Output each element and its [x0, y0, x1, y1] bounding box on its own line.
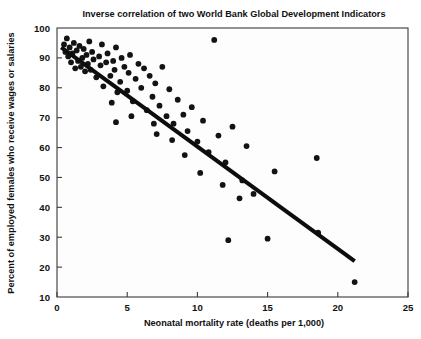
- data-point: [103, 59, 109, 65]
- y-tick-label: 50: [39, 172, 50, 183]
- data-point: [166, 86, 172, 92]
- plot-frame: [57, 28, 408, 297]
- data-point: [91, 56, 97, 62]
- x-tick-label: 15: [262, 302, 273, 313]
- data-point: [119, 55, 125, 61]
- data-point: [251, 191, 257, 197]
- data-point: [151, 121, 157, 127]
- data-point: [112, 67, 118, 73]
- data-point: [189, 104, 195, 110]
- data-point: [96, 53, 102, 59]
- x-axis-label: Neonatal mortality rate (deaths per 1,00…: [144, 318, 324, 328]
- scatter-plot: Inverse correlation of two World Bank Gl…: [0, 0, 421, 339]
- chart-figure: Inverse correlation of two World Bank Gl…: [0, 0, 421, 339]
- y-tick-label: 60: [39, 142, 50, 153]
- data-point: [237, 195, 243, 201]
- data-point: [136, 61, 142, 67]
- data-point: [107, 73, 113, 79]
- data-point: [175, 97, 181, 103]
- data-point: [352, 279, 358, 285]
- data-point: [67, 45, 73, 51]
- data-point: [109, 100, 115, 106]
- data-point: [113, 119, 119, 125]
- y-tick-label: 20: [39, 262, 50, 273]
- data-point: [129, 113, 135, 119]
- data-point: [133, 76, 139, 82]
- data-point: [141, 65, 147, 71]
- y-tick-label: 40: [39, 202, 50, 213]
- data-point: [211, 37, 217, 43]
- data-point: [105, 51, 111, 57]
- data-point: [152, 80, 158, 86]
- data-point: [272, 169, 278, 175]
- data-point: [164, 113, 170, 119]
- data-point: [82, 68, 88, 74]
- data-point: [89, 49, 95, 55]
- y-tick-label: 10: [39, 292, 50, 303]
- data-point: [98, 62, 104, 68]
- x-tick-label: 10: [192, 302, 203, 313]
- data-point: [72, 65, 78, 71]
- x-tick-label: 0: [54, 302, 59, 313]
- data-point: [121, 64, 127, 70]
- data-point: [86, 39, 92, 45]
- x-tick-label: 5: [125, 302, 131, 313]
- data-point: [314, 155, 320, 161]
- data-point: [100, 83, 106, 89]
- y-axis-tick-labels: 102030405060708090100: [34, 23, 50, 303]
- data-point: [117, 79, 123, 85]
- data-point: [230, 124, 236, 130]
- data-point: [244, 143, 250, 149]
- y-tick-label: 30: [39, 232, 50, 243]
- data-point: [99, 42, 105, 48]
- y-axis-label: Percent of employed females who receive …: [6, 32, 16, 293]
- x-axis-tick-labels: 0510152025: [54, 302, 414, 313]
- data-point: [200, 118, 206, 124]
- chart-title: Inverse correlation of two World Bank Gl…: [82, 9, 385, 19]
- data-point: [110, 58, 116, 64]
- data-point: [185, 128, 191, 134]
- data-point: [216, 133, 222, 139]
- y-tick-label: 70: [39, 112, 50, 123]
- data-point: [71, 40, 77, 46]
- data-point: [81, 46, 87, 52]
- x-tick-label: 20: [332, 302, 343, 313]
- data-point: [127, 52, 133, 58]
- data-point: [154, 131, 160, 137]
- data-point: [84, 52, 90, 58]
- data-point: [68, 59, 74, 65]
- data-point: [113, 45, 119, 51]
- x-tick-label: 25: [403, 302, 414, 313]
- y-tick-label: 80: [39, 82, 50, 93]
- data-point: [138, 85, 144, 91]
- data-point: [126, 70, 132, 76]
- data-point: [147, 73, 153, 79]
- data-point: [197, 170, 203, 176]
- data-point: [265, 236, 271, 242]
- y-tick-label: 100: [34, 23, 50, 34]
- data-point: [157, 103, 163, 109]
- data-point: [169, 137, 175, 143]
- data-point: [150, 94, 156, 100]
- data-point: [220, 182, 226, 188]
- y-tick-label: 90: [39, 52, 50, 63]
- data-point: [180, 112, 186, 118]
- data-point: [159, 64, 165, 70]
- data-point: [182, 152, 188, 158]
- data-point: [225, 237, 231, 243]
- data-point: [64, 36, 70, 42]
